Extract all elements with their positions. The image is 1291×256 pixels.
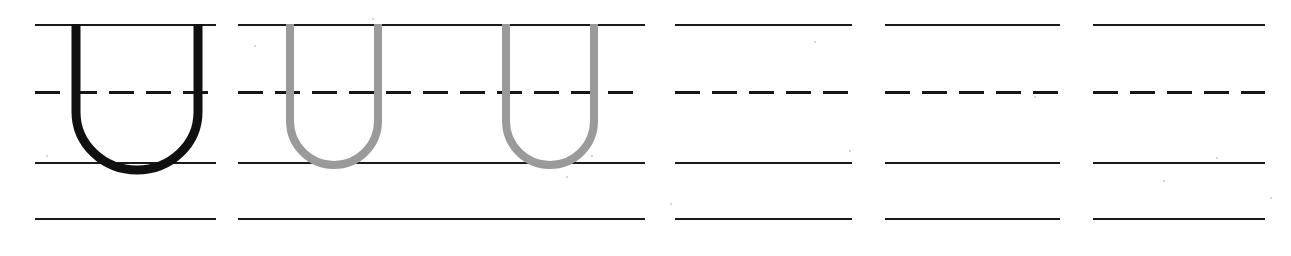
baseline-rule-3: [675, 162, 852, 164]
descender-rule-1: [35, 218, 216, 220]
descender-rule-4: [885, 218, 1060, 220]
trace-letter-u-2: [502, 24, 598, 166]
practice-cell-5: [885, 0, 1060, 256]
practice-cell-1: [35, 0, 216, 256]
scan-speck: [1270, 197, 1272, 199]
top-rule-line-5: [1093, 24, 1265, 26]
top-rule-line-3: [675, 24, 852, 26]
practice-cell-group-2: [238, 0, 645, 256]
dashed-midline-3: [675, 91, 852, 94]
dashed-midline-4: [885, 91, 1060, 94]
descender-rule-5: [1093, 218, 1265, 220]
practice-cell-4: [675, 0, 852, 256]
handwriting-practice-worksheet: [0, 0, 1291, 256]
scan-speck: [670, 203, 672, 205]
descender-rule-3: [675, 218, 852, 220]
dashed-midline-5: [1093, 91, 1265, 94]
baseline-rule-5: [1093, 162, 1265, 164]
model-letter-u: [71, 24, 213, 164]
trace-letter-u-1: [286, 24, 382, 166]
practice-cell-6: [1093, 0, 1265, 256]
top-rule-line-4: [885, 24, 1060, 26]
descender-rule-2: [238, 218, 645, 220]
baseline-rule-4: [885, 162, 1060, 164]
